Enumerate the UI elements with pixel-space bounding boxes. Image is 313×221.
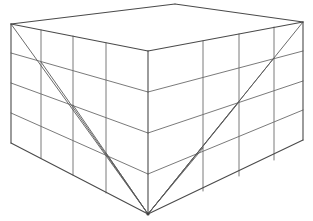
face-fills — [11, 4, 303, 214]
bottom-corner-node — [146, 212, 149, 215]
wireframe-box-figure: wireframe rectangular box Perspective wi… — [0, 0, 313, 221]
convergence-nodes — [146, 212, 149, 215]
